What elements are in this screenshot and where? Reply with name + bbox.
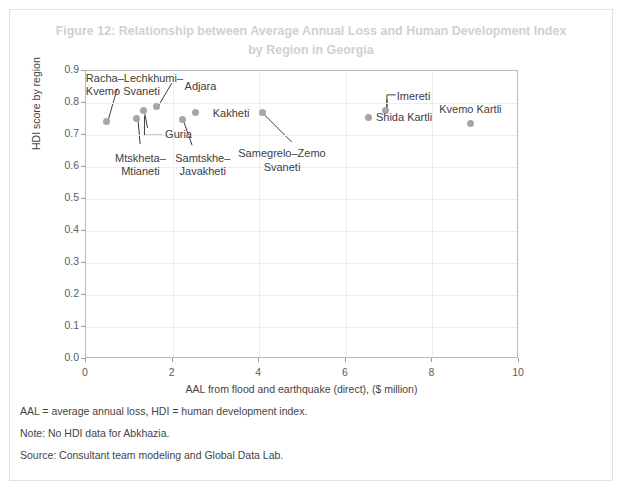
y-axis-tick-mark	[81, 294, 85, 295]
data-point	[192, 109, 199, 116]
label-leader-line	[138, 119, 140, 144]
footnote-note: Note: No HDI data for Abkhazia.	[20, 427, 169, 439]
x-axis-tick-mark	[85, 358, 86, 362]
figure-title-line-1: Figure 12: Relationship between Average …	[28, 22, 594, 41]
gridline-horizontal	[86, 135, 517, 136]
x-axis-tick-mark	[431, 358, 432, 362]
figure-title: Figure 12: Relationship between Average …	[28, 22, 594, 60]
figure-title-line-2: by Region in Georgia	[28, 41, 594, 60]
x-axis-tick-mark	[172, 358, 173, 362]
label-leader-line	[144, 112, 147, 128]
x-axis-title: AAL from flood and earthquake (direct), …	[85, 383, 518, 395]
y-axis-tick-mark	[81, 70, 85, 71]
x-axis-tick-label: 0	[65, 366, 105, 378]
data-point	[133, 115, 140, 122]
data-point-label: Adjara	[185, 80, 217, 94]
x-axis-tick-label: 6	[325, 366, 365, 378]
y-axis-tick-mark	[81, 262, 85, 263]
gridline-horizontal	[86, 295, 517, 296]
data-point	[179, 116, 186, 123]
y-axis-tick-label: 0.3	[45, 255, 79, 267]
x-axis-tick-label: 10	[498, 366, 538, 378]
data-point-label: Racha–Lechkhumi– Kvemo Svaneti	[86, 72, 183, 99]
y-axis-tick-mark	[81, 230, 85, 231]
figure-container: Figure 12: Relationship between Average …	[0, 0, 623, 493]
x-axis-tick-label: 4	[238, 366, 278, 378]
gridline-horizontal	[86, 199, 517, 200]
y-axis-tick-label: 0.4	[45, 223, 79, 235]
data-point-label: Imereti	[397, 90, 431, 104]
y-axis-tick-label: 0.8	[45, 95, 79, 107]
data-point-label: Kvemo Kartli	[400, 103, 540, 117]
y-axis-tick-label: 0.7	[45, 127, 79, 139]
label-leader-line	[264, 114, 292, 142]
data-point-label: Kakheti	[213, 107, 250, 121]
y-axis-tick-label: 0.5	[45, 191, 79, 203]
y-axis-tick-mark	[81, 198, 85, 199]
y-axis-title: HDI score by region	[30, 57, 42, 150]
y-axis-tick-label: 0.0	[45, 351, 79, 363]
data-point	[103, 118, 110, 125]
y-axis-tick-mark	[81, 326, 85, 327]
y-axis-tick-label: 0.2	[45, 287, 79, 299]
gridline-vertical	[173, 71, 174, 357]
y-axis-tick-mark	[81, 102, 85, 103]
data-point	[365, 114, 372, 121]
x-axis-tick-mark	[518, 358, 519, 362]
x-axis-tick-mark	[345, 358, 346, 362]
data-point-label: Guria	[165, 128, 192, 142]
gridline-horizontal	[86, 231, 517, 232]
data-point-label: Samegrelo–Zemo Svaneti	[212, 147, 352, 174]
label-leader-elbow	[387, 95, 396, 108]
y-axis-tick-label: 0.9	[45, 63, 79, 75]
data-point	[153, 103, 160, 110]
footnote-source: Source: Consultant team modeling and Glo…	[20, 449, 283, 461]
gridline-horizontal	[86, 327, 517, 328]
x-axis-tick-label: 2	[152, 366, 192, 378]
label-leader-elbow	[144, 116, 163, 135]
gridline-horizontal	[86, 263, 517, 264]
footnote-abbreviations: AAL = average annual loss, HDI = human d…	[20, 405, 307, 417]
y-axis-tick-mark	[81, 134, 85, 135]
x-axis-tick-mark	[258, 358, 259, 362]
x-axis-tick-label: 8	[411, 366, 451, 378]
y-axis-tick-label: 0.1	[45, 319, 79, 331]
gridline-vertical	[346, 71, 347, 357]
